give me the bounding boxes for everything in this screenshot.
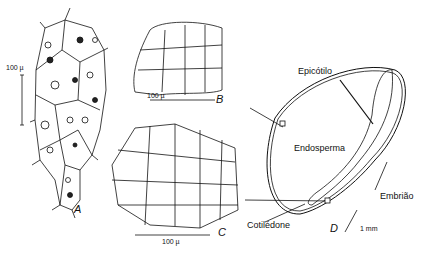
- panel-b-letter: B: [216, 93, 223, 105]
- panel-d-letter: D: [330, 222, 338, 234]
- panel-d-scale: 1 mm: [360, 225, 378, 232]
- label-embryo: Embrião: [380, 191, 414, 201]
- panel-c-letter: C: [218, 226, 226, 238]
- label-endosperm: Endosperma: [294, 143, 345, 153]
- panel-a-letter: A: [74, 203, 81, 215]
- diagram-canvas: [0, 0, 425, 254]
- panel-b-tissue: [134, 22, 222, 100]
- panel-b-scale: 100 µ: [147, 92, 165, 99]
- panel-a-scale: 100 µ: [6, 64, 24, 71]
- label-cotyledon: Cotilédone: [247, 220, 290, 230]
- panel-a-tissue: [20, 8, 108, 218]
- panel-c-scale: 100 µ: [162, 238, 180, 245]
- panel-c-tissue: [112, 124, 238, 235]
- label-epicotyl: Epicótilo: [298, 66, 332, 76]
